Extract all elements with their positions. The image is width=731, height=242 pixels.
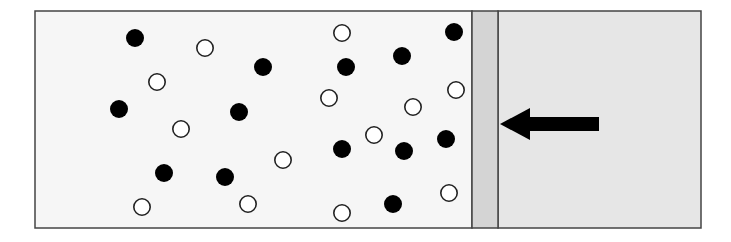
gas-chamber (35, 11, 472, 228)
filled-particle (445, 23, 463, 41)
open-particle (240, 196, 256, 212)
filled-particle (155, 164, 173, 182)
filled-particle (230, 103, 248, 121)
filled-particle (110, 100, 128, 118)
filled-particle (254, 58, 272, 76)
filled-particle (384, 195, 402, 213)
filled-particle (437, 130, 455, 148)
open-particle (448, 82, 464, 98)
filled-particle (337, 58, 355, 76)
piston (472, 11, 498, 228)
open-particle (275, 152, 291, 168)
open-particle (441, 185, 457, 201)
filled-particle (333, 140, 351, 158)
open-particle (197, 40, 213, 56)
open-particle (321, 90, 337, 106)
open-particle (173, 121, 189, 137)
filled-particle (393, 47, 411, 65)
open-particle (405, 99, 421, 115)
open-particle (149, 74, 165, 90)
filled-particle (216, 168, 234, 186)
filled-particle (126, 29, 144, 47)
open-particle (334, 25, 350, 41)
open-particle (134, 199, 150, 215)
open-particle (366, 127, 382, 143)
open-particle (334, 205, 350, 221)
piston-cylinder-diagram (0, 0, 731, 242)
filled-particle (395, 142, 413, 160)
